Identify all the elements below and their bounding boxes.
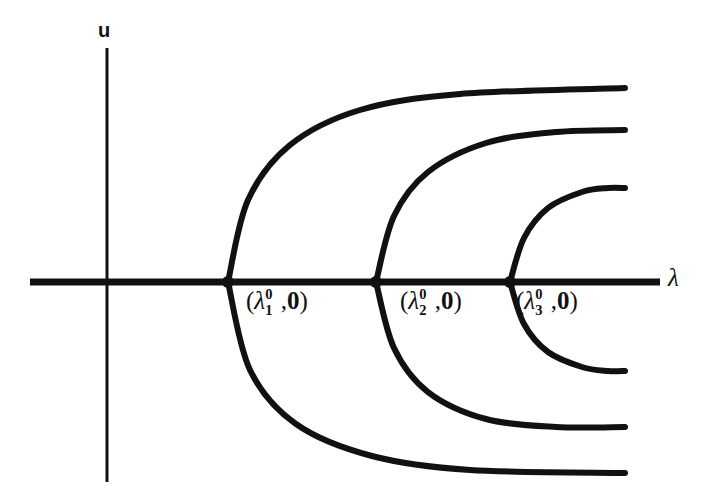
paren-close: ) xyxy=(299,287,307,314)
lambda-symbol: λ xyxy=(524,287,535,314)
bifurcation-point-label-1: (λ01,0) xyxy=(246,288,308,313)
paren-close: ) xyxy=(569,287,577,314)
bifurcation-point-label-2: (λ02,0) xyxy=(400,288,462,313)
zero-value: 0 xyxy=(557,287,570,314)
diagram-canvas xyxy=(0,0,703,499)
bifurcation-diagram-figure: u λ (λ01,0) (λ02,0) (λ03,0) xyxy=(0,0,703,499)
bifurcation-point-marker-point-3 xyxy=(504,276,516,288)
zero-value: 0 xyxy=(287,287,300,314)
lambda-axis-label: λ xyxy=(668,265,679,290)
lambda-symbol: λ xyxy=(408,287,419,314)
bifurcation-point-label-3: (λ03,0) xyxy=(516,288,578,313)
solution-branch-branch-2-upper xyxy=(376,130,625,282)
bifurcation-point-marker-point-1 xyxy=(222,276,234,288)
zero-value: 0 xyxy=(441,287,454,314)
lambda-symbol: λ xyxy=(254,287,265,314)
paren-close: ) xyxy=(453,287,461,314)
u-axis-label: u xyxy=(98,20,110,40)
bifurcation-point-marker-point-2 xyxy=(370,276,382,288)
solution-branch-branch-3-upper xyxy=(510,188,625,282)
solution-branch-branch-1-upper xyxy=(228,88,625,282)
